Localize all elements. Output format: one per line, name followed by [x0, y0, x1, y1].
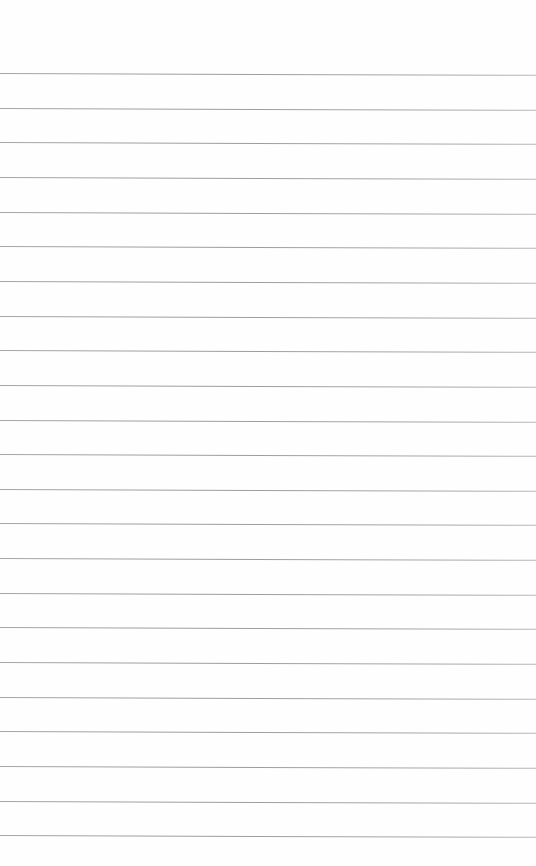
ruled-line [0, 350, 536, 353]
ruled-line [0, 142, 536, 145]
ruled-line [0, 489, 536, 492]
ruled-line [0, 420, 536, 423]
ruled-line [0, 662, 536, 665]
ruled-line [0, 316, 536, 319]
ruled-line [0, 281, 536, 284]
ruled-line [0, 523, 536, 526]
ruled-line [0, 177, 536, 180]
ruled-line [0, 593, 536, 596]
ruled-line [0, 108, 536, 111]
lined-paper-page [0, 0, 536, 866]
ruled-line [0, 697, 536, 700]
ruled-line [0, 558, 536, 561]
ruled-line [0, 627, 536, 630]
ruled-line [0, 246, 536, 249]
ruled-line [0, 731, 536, 734]
ruled-line [0, 835, 536, 838]
ruled-line [0, 454, 536, 457]
ruled-line [0, 801, 536, 804]
ruled-line [0, 73, 536, 76]
ruled-line [0, 766, 536, 769]
ruled-line [0, 212, 536, 215]
ruled-line [0, 385, 536, 388]
